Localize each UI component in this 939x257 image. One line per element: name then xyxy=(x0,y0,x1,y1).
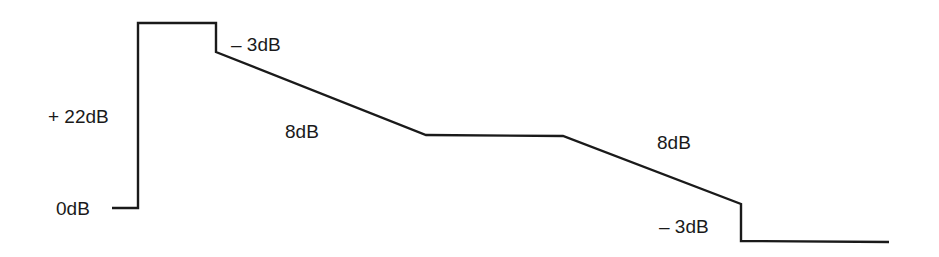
label-drop-first-3db: – 3dB xyxy=(231,35,281,54)
level-path-svg xyxy=(0,0,939,257)
level-diagram: 0dB + 22dB – 3dB 8dB 8dB – 3dB xyxy=(0,0,939,257)
label-slope-second-8db: 8dB xyxy=(657,133,691,152)
level-path-line xyxy=(112,23,889,242)
label-slope-first-8db: 8dB xyxy=(285,122,319,141)
label-gain-22db: + 22dB xyxy=(48,107,109,126)
label-drop-second-3db: – 3dB xyxy=(659,217,709,236)
label-zero-db: 0dB xyxy=(56,199,90,218)
